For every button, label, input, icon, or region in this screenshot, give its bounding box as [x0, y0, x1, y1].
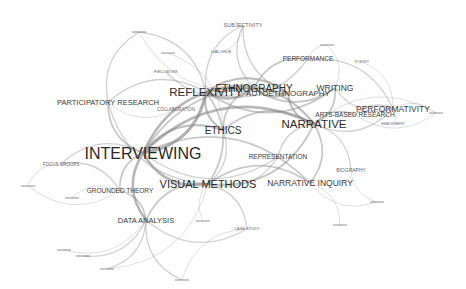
node-label-narrative: NARRATIVE [282, 118, 347, 130]
node-label-data-analysis: DATA ANALYSIS [118, 216, 174, 225]
node-label-embodiment: EMBODIMENT [381, 122, 406, 126]
network-labels: INTERVIEWINGREFLEXIVITYNARRATIVEVISUAL M… [21, 22, 443, 280]
node-label-interviewing: INTERVIEWING [84, 145, 201, 162]
network-edge [221, 25, 243, 52]
node-label-ethics: ETHICS [205, 125, 242, 136]
node-label-arts-based-research: ARTS-BASED RESEARCH [315, 111, 395, 118]
keyword-network-graph: INTERVIEWINGREFLEXIVITYNARRATIVEVISUAL M… [0, 0, 466, 289]
node-label-fieldwork: FIELDWORK [154, 69, 178, 74]
node-label-performance: PERFORMANCE [283, 55, 334, 62]
node-label-case-study: CASE STUDY [234, 226, 260, 231]
node-label-dialogue: DIALOGUE [211, 49, 232, 54]
network-edge [208, 184, 247, 229]
node-label-biography: BIOGRAPHY [336, 167, 366, 173]
node-label-grounded-theory: GROUNDED THEORY [87, 187, 154, 194]
node-label-subjectivity: SUBJECTIVITY [224, 22, 263, 28]
network-edge [28, 164, 61, 186]
network-edge [362, 62, 393, 109]
network-edge [146, 220, 182, 280]
node-label-poetry: POETRY [355, 60, 370, 64]
network-edge [327, 45, 339, 88]
network-edge [83, 220, 146, 256]
node-label-writing: WRITING [317, 83, 354, 93]
network-edge [310, 183, 340, 225]
node-label-focus-groups: FOCUS GROUPS [43, 162, 80, 167]
network-edge [310, 124, 322, 183]
network-edge [64, 220, 146, 253]
network-edge [351, 170, 377, 202]
node-label-representation: REPRESENTATION [249, 153, 308, 160]
node-label-participatory-research: PARTICIPATORY RESEARCH [57, 98, 159, 107]
network-edge [139, 32, 206, 92]
node-label-collaboration: COLLABORATION [157, 107, 195, 112]
network-edge [182, 229, 247, 280]
network-edge [139, 32, 254, 90]
node-label-narrative-inquiry: NARRATIVE INQUIRY [267, 178, 353, 188]
node-label-visual-methods: VISUAL METHODS [160, 178, 257, 190]
